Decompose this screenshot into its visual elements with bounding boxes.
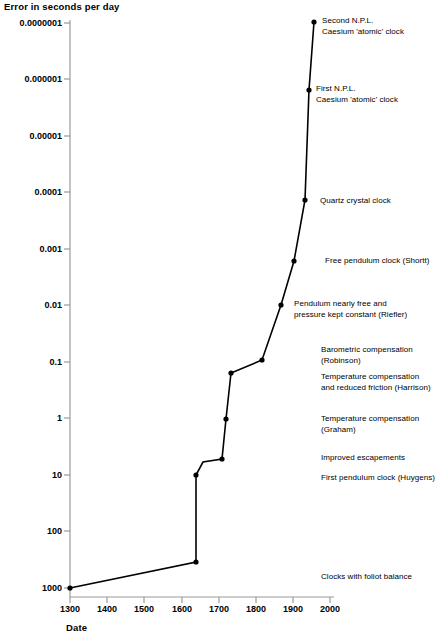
plot-area: [0, 0, 441, 641]
data-point-first-npl[interactable]: [306, 87, 311, 92]
series-markers: [67, 19, 316, 590]
data-point-huygens[interactable]: [193, 472, 198, 477]
data-point-riefler[interactable]: [278, 302, 283, 307]
x-tick-marks: [70, 597, 330, 603]
data-point-1650-300[interactable]: [193, 559, 198, 564]
data-point-shortt[interactable]: [291, 258, 296, 263]
data-point-quartz[interactable]: [302, 197, 307, 202]
data-point-second-npl[interactable]: [311, 19, 316, 24]
data-point-escapements[interactable]: [219, 456, 224, 461]
series-line: [70, 22, 314, 588]
data-point-harrison[interactable]: [228, 370, 233, 375]
y-tick-marks: [64, 23, 70, 588]
data-point-foliot[interactable]: [67, 585, 72, 590]
chart-container: Error in seconds per day Date 0.0000001 …: [0, 0, 441, 641]
data-point-graham[interactable]: [223, 416, 228, 421]
data-point-robinson[interactable]: [259, 357, 264, 362]
